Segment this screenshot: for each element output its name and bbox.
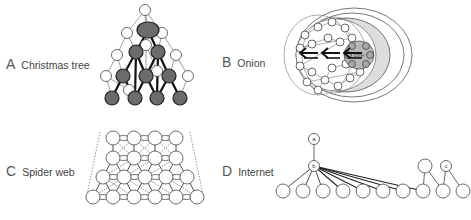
web-node [106, 190, 120, 204]
web-node [190, 190, 204, 204]
core-member-node [367, 52, 374, 59]
panel-a-title: Christmas tree [21, 59, 89, 71]
panel-c-title: Spider web [22, 166, 75, 178]
shell-node [314, 86, 322, 94]
core-node [137, 22, 159, 38]
shell-node [308, 40, 316, 48]
figure-canvas: coreabc [0, 0, 471, 220]
shell-node [341, 24, 349, 32]
panel-b-letter: B [222, 54, 231, 70]
leaf-node [416, 184, 430, 198]
panel-d-label: D Internet [222, 163, 274, 179]
core-node [105, 91, 119, 105]
leaf-node [376, 184, 390, 198]
shell-node [336, 38, 344, 46]
shell-node [296, 62, 304, 70]
leaf-node [336, 184, 350, 198]
panel-b-label: B Onion [222, 54, 265, 70]
shell-node [324, 34, 332, 42]
web-node [169, 131, 183, 145]
shell-node [308, 68, 316, 76]
core-member-node [363, 43, 370, 50]
panel-d-title: Internet [238, 166, 274, 178]
web-node [127, 151, 141, 165]
shell-node [328, 64, 336, 72]
leaf-node [276, 184, 290, 198]
core-member-node [363, 61, 370, 68]
leaf-node [316, 184, 330, 198]
web-node [96, 170, 110, 184]
peripheral-node [122, 28, 133, 39]
shell-node [328, 18, 336, 26]
panel-c-label: C Spider web [6, 163, 75, 179]
web-node [148, 151, 162, 165]
shell-node [314, 23, 322, 31]
web-node [138, 170, 152, 184]
core-node [128, 91, 142, 105]
core-node [150, 91, 164, 105]
spider-web-diagram [86, 131, 204, 204]
shell-node [303, 78, 311, 86]
web-node [127, 190, 141, 204]
shell-node [301, 31, 309, 39]
web-node [148, 190, 162, 204]
web-node [180, 170, 194, 184]
core-node [116, 69, 130, 83]
christmas-tree-diagram [101, 5, 194, 106]
core-node [129, 45, 143, 59]
peripheral-node [183, 71, 194, 82]
panel-a-letter: A [6, 56, 15, 72]
web-node [86, 190, 100, 204]
core-node [162, 69, 176, 83]
leaf-node [296, 184, 310, 198]
peripheral-node [112, 50, 123, 61]
shell-node [334, 82, 342, 90]
web-node [169, 151, 183, 165]
leaf-node [436, 184, 450, 198]
web-node [159, 170, 173, 184]
peripheral-node [171, 50, 182, 61]
web-node [106, 131, 120, 145]
panel-b-title: Onion [237, 57, 265, 69]
core-node [139, 69, 153, 83]
leaf-node [456, 184, 470, 198]
network-topology-figure: coreabc A Christmas tree B Onion C Spide… [0, 0, 471, 220]
leaf-node [356, 184, 370, 198]
shell-node [346, 74, 354, 82]
core-node [173, 91, 187, 105]
web-node [106, 151, 120, 165]
shell-node [348, 34, 356, 42]
web-node [127, 131, 141, 145]
peripheral-node [140, 5, 151, 16]
shell-node [321, 76, 329, 84]
panel-d-letter: D [222, 163, 232, 179]
panel-a-label: A Christmas tree [6, 56, 90, 72]
peripheral-node [101, 71, 112, 82]
core-node [151, 45, 165, 59]
node-r1 [418, 159, 432, 173]
internet-diagram: abc [276, 134, 470, 199]
core-member-node [349, 61, 356, 68]
panel-c-letter: C [6, 163, 16, 179]
onion-diagram: core [284, 8, 412, 102]
node-c-label: c [445, 163, 448, 169]
web-node [169, 190, 183, 204]
web-node [148, 131, 162, 145]
leaf-node [396, 184, 410, 198]
web-node [117, 170, 131, 184]
